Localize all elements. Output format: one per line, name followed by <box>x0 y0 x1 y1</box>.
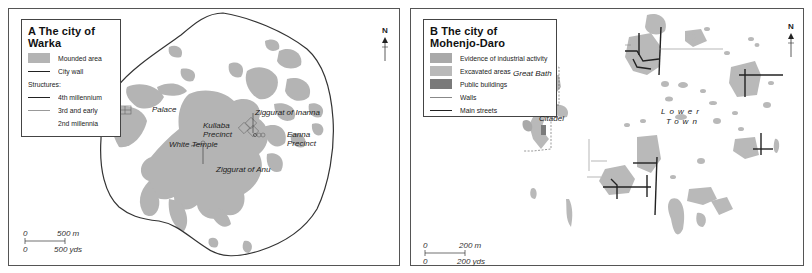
scale-bottom-value: 200 yds <box>457 257 485 266</box>
label-eanna-1: Eanna <box>287 130 310 139</box>
legend-label: City wall <box>58 67 83 76</box>
label-white-temple: White Temple <box>169 140 218 149</box>
legend-item-mounded: Mounded area <box>28 52 114 64</box>
scale-bottom-value: 500 yds <box>54 245 82 254</box>
north-arrow-icon <box>382 37 388 61</box>
label-kullaba-1: Kullaba <box>203 121 230 130</box>
legend-structures-heading: Structures: <box>28 80 101 89</box>
legend-item-city-wall: City wall <box>28 65 114 77</box>
legend-item-walls: Walls <box>430 91 550 103</box>
map-panel-mohenjo-daro: B The city of Mohenjo-Daro Evidence of i… <box>410 8 804 266</box>
scale-top-zero: 0 <box>23 229 27 238</box>
legend-label: Public buildings <box>460 80 507 89</box>
label-town: Town <box>666 117 701 126</box>
legend-label: Evidence of industrial activity <box>460 54 547 63</box>
scale-top-value: 500 m <box>57 229 79 238</box>
3rd-millennium-line-swatch <box>28 110 50 111</box>
scale-bottom-zero: 0 <box>23 245 27 254</box>
label-ziggurat-inanna: Ziggurat of Inanna <box>255 108 320 117</box>
map-panel-warka: A The city of Warka Mounded area City wa… <box>8 8 400 266</box>
scale-bar <box>25 238 65 244</box>
north-label: N <box>786 22 796 31</box>
legend-label: Main streets <box>460 106 497 115</box>
legend-mohenjo-daro: B The city of Mohenjo-Daro Evidence of i… <box>423 19 557 117</box>
legend-item-public-buildings: Public buildings <box>430 78 550 90</box>
legend-title: B The city of Mohenjo-Daro <box>430 25 550 49</box>
scale-bar <box>425 250 465 256</box>
excavated-area-swatch <box>430 66 452 76</box>
legend-label: 2nd millennia <box>58 119 98 128</box>
legend-label: Excavated areas <box>460 67 511 76</box>
walls-line-swatch <box>430 97 452 98</box>
4th-millennium-line-swatch <box>28 97 50 98</box>
legend-warka: A The city of Warka Mounded area City wa… <box>21 19 121 137</box>
city-wall-line-swatch <box>28 71 50 72</box>
legend-label: Walls <box>460 93 476 102</box>
legend-item-industrial: Evidence of industrial activity <box>430 52 550 64</box>
north-arrow-icon <box>788 33 794 57</box>
public-buildings-swatch <box>430 79 452 89</box>
legend-title: A The city of Warka <box>28 25 114 49</box>
industrial-activity-swatch <box>430 53 452 63</box>
label-kullaba-2: Precinct <box>203 130 232 139</box>
label-ziggurat-anu: Ziggurat of Anu <box>216 165 270 174</box>
legend-label: 4th millennium <box>58 93 102 102</box>
legend-label: Mounded area <box>58 54 102 63</box>
label-citadel: Citadel <box>539 114 564 123</box>
north-label: N <box>380 26 390 35</box>
label-great-bath: Great Bath <box>513 69 552 78</box>
legend-item-main-streets: Main streets <box>430 104 550 116</box>
mounded-area-swatch <box>28 53 50 63</box>
scale-top-value: 200 m <box>459 241 481 250</box>
legend-item-4th-millennium: 4th millennium <box>28 91 114 103</box>
legend-item-2nd-millennia: 2nd millennia <box>28 117 114 129</box>
scale-bottom-zero: 0 <box>423 257 427 266</box>
scale-top-zero: 0 <box>423 241 427 250</box>
label-palace: Palace <box>152 105 176 114</box>
label-lower: Lower <box>661 107 703 116</box>
legend-item-3rd-millennium: 3rd and early <box>28 104 114 116</box>
legend-label: 3rd and early <box>58 106 98 115</box>
main-streets-line-swatch <box>430 110 452 111</box>
label-eanna-2: Precinct <box>287 139 316 148</box>
